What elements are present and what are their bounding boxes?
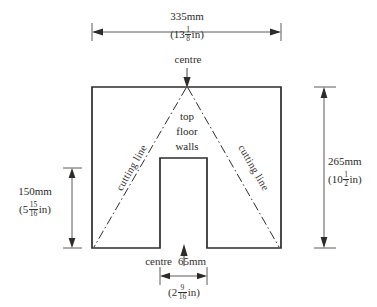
- right-dim-arrow-top: [321, 87, 328, 98]
- right-dimension-label: 265mm (1012in): [328, 155, 376, 187]
- bottom-imperial-close: in): [188, 286, 200, 298]
- left-dim-arrow-bottom: [69, 238, 76, 248]
- bottom-imperial-denominator: 16: [178, 293, 188, 301]
- bottom-imperial-whole: 2: [172, 286, 178, 298]
- part-label-walls: walls: [159, 140, 215, 152]
- right-dimension-metric: 265mm: [328, 155, 376, 167]
- left-imperial-fraction: 1516: [29, 201, 39, 217]
- part-label-top: top: [159, 110, 215, 122]
- right-dimension-imperial: (1012in): [328, 171, 376, 187]
- right-imperial-close: in): [349, 173, 361, 185]
- technical-drawing-canvas: 335mm (1318in) centre 265mm (1012in) 150…: [0, 0, 377, 307]
- left-imperial-close: in): [39, 203, 51, 215]
- bottom-dim-arrow-right: [197, 273, 207, 279]
- part-labels-group: top floor walls: [159, 110, 215, 152]
- top-dimension-imperial: (1318in): [137, 26, 237, 42]
- bottom-dim-arrow-left: [160, 273, 170, 279]
- centre-top-label: centre: [167, 54, 209, 66]
- part-label-floor: floor: [159, 125, 215, 137]
- left-imperial-denominator: 16: [29, 210, 39, 218]
- left-imperial-whole: 5: [23, 203, 29, 215]
- top-dim-arrow-right: [270, 29, 281, 36]
- top-dim-arrow-left: [92, 29, 103, 36]
- top-imperial-denominator: 8: [185, 35, 191, 43]
- top-imperial-close: in): [192, 28, 204, 40]
- bottom-imperial-fraction: 916: [178, 284, 188, 300]
- right-imperial-whole: 10: [332, 173, 343, 185]
- bottom-dimension-imperial: (2916in): [148, 284, 220, 300]
- left-dimension-label: 150mm (51516in): [4, 185, 66, 217]
- left-dimension-metric: 150mm: [4, 185, 66, 197]
- top-dimension-metric: 335mm: [137, 10, 237, 22]
- top-dimension-label: 335mm (1318in): [137, 10, 237, 42]
- centre-bottom-label: centre: [126, 256, 172, 268]
- top-imperial-fraction: 18: [185, 26, 191, 42]
- bottom-dimension-metric: 65mm: [178, 256, 226, 268]
- right-dim-arrow-bottom: [321, 237, 328, 248]
- left-dim-arrow-top: [69, 168, 76, 178]
- left-dimension-imperial: (51516in): [4, 201, 66, 217]
- top-imperial-whole: 13: [174, 28, 185, 40]
